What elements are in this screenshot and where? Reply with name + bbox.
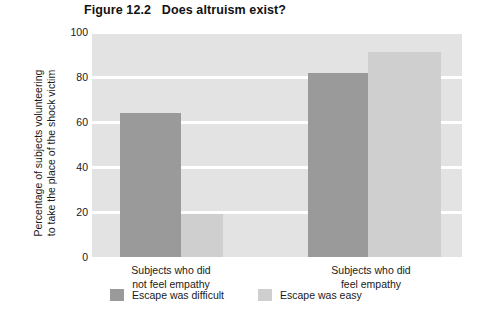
bar-group-0-series-0 <box>120 113 181 257</box>
y-axis-tick-labels: 100806040200 <box>58 28 88 262</box>
y-tick-label-0: 0 <box>60 252 88 262</box>
y-tick-label-20: 20 <box>60 207 88 217</box>
bar-group-1-series-0 <box>308 73 368 258</box>
bar-group-0-series-1 <box>181 214 223 257</box>
y-axis-title-line-2: to take the place of the shock victim <box>45 38 58 268</box>
y-tick-label-80: 80 <box>60 72 88 82</box>
gridline-100 <box>92 32 462 34</box>
legend-swatch-icon-series-1 <box>258 289 272 301</box>
y-axis-title-line-1: Percentage of subjects volunteering <box>32 38 45 268</box>
legend-swatch-icon-series-0 <box>110 289 124 301</box>
legend-label-series-0: Escape was difficult <box>132 289 224 301</box>
y-tick-label-100: 100 <box>60 27 88 37</box>
x-axis-category-label-0: Subjects who did not feel empathy <box>116 263 226 291</box>
y-tick-label-40: 40 <box>60 162 88 172</box>
x-axis-category-label-1: Subjects who did feel empathy <box>316 263 426 291</box>
category-1-line-1: Subjects who did <box>316 263 426 277</box>
legend-item-escape-was-difficult: Escape was difficult <box>110 289 224 301</box>
bar-group-1-series-1 <box>368 52 441 257</box>
legend-label-series-1: Escape was easy <box>280 289 362 301</box>
legend: Escape was difficult Escape was easy <box>110 289 362 301</box>
category-0-line-1: Subjects who did <box>116 263 226 277</box>
plot-area <box>92 32 462 257</box>
page-title: Figure 12.2 Does altruism exist? <box>84 3 286 17</box>
y-tick-label-60: 60 <box>60 117 88 127</box>
y-axis-title: Percentage of subjects volunteering to t… <box>32 38 58 268</box>
legend-item-escape-was-easy: Escape was easy <box>258 289 362 301</box>
